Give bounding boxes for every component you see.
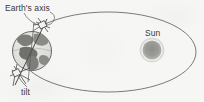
label-earths-axis: Earth's axis (5, 3, 50, 13)
leader-earths-axis-stem (24, 13, 38, 25)
label-sun: Sun (145, 28, 160, 38)
label-tilt: tilt (21, 87, 30, 97)
sun-disc (143, 41, 162, 60)
diagram-canvas (0, 0, 204, 102)
orbit-diagram-figure: Earth's axis tilt Sun (0, 0, 204, 102)
